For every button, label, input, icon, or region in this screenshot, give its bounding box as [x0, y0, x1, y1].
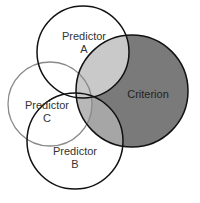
predictor-a-label-line1: Predictor — [62, 30, 106, 43]
criterion-label: Criterion — [127, 88, 169, 101]
criterion-label-text: Criterion — [127, 88, 169, 101]
predictor-a-label-line2: A — [62, 43, 106, 56]
predictor-b-label: Predictor B — [53, 145, 97, 171]
predictor-a-label: Predictor A — [62, 30, 106, 56]
predictor-b-label-line2: B — [53, 158, 97, 171]
predictor-c-label-line1: Predictor — [25, 99, 69, 112]
predictor-b-label-line1: Predictor — [53, 145, 97, 158]
predictor-c-label: Predictor C — [25, 99, 69, 125]
predictor-c-label-line2: C — [25, 112, 69, 125]
